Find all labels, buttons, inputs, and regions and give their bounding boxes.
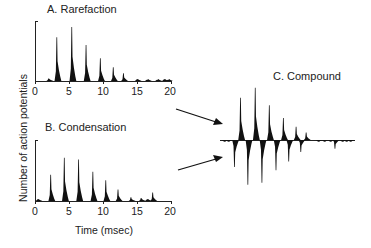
panel-b-histogram <box>36 158 158 201</box>
x-axis-label: Time (msec) <box>75 224 133 236</box>
panel-b-tick-0: 0 <box>32 205 38 217</box>
panel-b-tick-20: 20 <box>164 205 176 217</box>
panel-a-histogram <box>46 27 172 81</box>
panel-a-title: A. Rarefaction <box>47 3 117 15</box>
panel-b-tick-15: 15 <box>131 205 143 217</box>
panel-b-axes <box>35 140 172 204</box>
y-axis-label: Number of action potentials <box>17 63 29 213</box>
panel-a-tick-10: 10 <box>97 85 109 97</box>
arrow-b-to-c <box>178 155 223 170</box>
panel-a-tick-15: 15 <box>131 85 143 97</box>
panel-a-tick-20: 20 <box>164 85 176 97</box>
arrow-a-to-c <box>176 109 223 125</box>
panel-c-compound-histogram <box>222 88 355 185</box>
panel-b-tick-10: 10 <box>97 205 109 217</box>
panel-a-tick-0: 0 <box>32 85 38 97</box>
panel-b-tick-5: 5 <box>66 205 72 217</box>
panel-c-title: C. Compound <box>273 70 341 82</box>
panel-b-title: B. Condensation <box>45 121 126 133</box>
panel-a-tick-5: 5 <box>66 85 72 97</box>
